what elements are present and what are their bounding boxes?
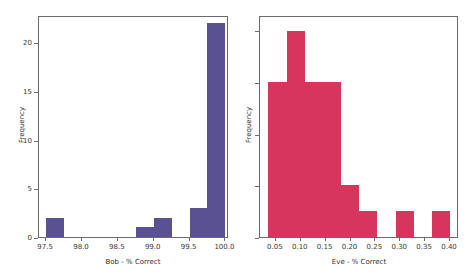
y-tick-label: 0 — [8, 234, 32, 242]
y-tick-mark — [255, 238, 259, 239]
chart-panel-eve: 0.050.100.150.200.250.300.350.40 Eve - %… — [235, 0, 470, 274]
x-tick-label: 97.5 — [37, 243, 53, 251]
histogram-bar — [323, 82, 341, 237]
y-tick-mark — [34, 189, 38, 190]
y-tick-mark — [34, 141, 38, 142]
x-tick-mark — [224, 238, 225, 241]
x-tick-label: 0.25 — [367, 243, 383, 251]
x-tick-mark — [449, 238, 450, 241]
x-tick-label: 0.05 — [267, 243, 283, 251]
x-tick-mark — [300, 238, 301, 241]
histogram-bar — [359, 211, 377, 237]
plot-area-bob — [38, 16, 228, 238]
y-tick-mark — [34, 43, 38, 44]
x-tick-mark — [45, 238, 46, 241]
x-tick-mark — [153, 238, 154, 241]
histogram-bar — [136, 227, 154, 237]
y-tick-mark — [255, 83, 259, 84]
x-tick-mark — [117, 238, 118, 241]
histogram-bar — [154, 218, 172, 237]
histogram-bar — [432, 211, 450, 237]
x-tick-mark — [374, 238, 375, 241]
y-tick-label: 20 — [8, 39, 32, 47]
histogram-bar — [268, 82, 286, 237]
x-tick-label: 0.20 — [342, 243, 358, 251]
histogram-bar — [46, 218, 64, 237]
x-tick-label: 0.30 — [391, 243, 407, 251]
y-tick-mark — [34, 238, 38, 239]
y-tick-mark — [34, 92, 38, 93]
x-tick-mark — [325, 238, 326, 241]
y-tick-label: 5 — [8, 185, 32, 193]
histogram-bar — [396, 211, 414, 237]
figure-canvas: 05101520 97.598.098.599.099.5100.0 Bob -… — [0, 0, 470, 274]
histogram-bar — [341, 185, 359, 237]
x-tick-label: 98.5 — [109, 243, 125, 251]
histogram-bar — [287, 31, 305, 238]
bars-container-bob — [39, 17, 227, 237]
x-tick-mark — [424, 238, 425, 241]
y-axis-label-eve: Frequency — [245, 95, 253, 155]
x-tick-label: 0.40 — [441, 243, 457, 251]
x-tick-label: 99.0 — [145, 243, 161, 251]
histogram-bar — [190, 208, 208, 237]
x-axis-label-eve: Eve - % Correct — [332, 258, 386, 266]
x-tick-label: 100.0 — [214, 243, 234, 251]
x-tick-mark — [189, 238, 190, 241]
y-tick-mark — [255, 186, 259, 187]
x-axis-label-bob: Bob - % Correct — [106, 258, 161, 266]
x-tick-mark — [350, 238, 351, 241]
plot-area-eve — [259, 16, 458, 238]
y-tick-mark — [255, 31, 259, 32]
x-tick-label: 99.5 — [181, 243, 197, 251]
histogram-bar — [305, 82, 323, 237]
x-tick-mark — [275, 238, 276, 241]
chart-panel-bob: 05101520 97.598.098.599.099.5100.0 Bob -… — [0, 0, 235, 274]
x-tick-mark — [81, 238, 82, 241]
x-tick-label: 0.15 — [317, 243, 333, 251]
bars-container-eve — [260, 17, 457, 237]
y-tick-mark — [255, 135, 259, 136]
x-tick-label: 0.35 — [416, 243, 432, 251]
histogram-bar — [207, 23, 225, 237]
y-axis-label-bob: Frequency — [18, 95, 26, 155]
x-tick-mark — [399, 238, 400, 241]
x-tick-label: 0.10 — [292, 243, 308, 251]
x-tick-label: 98.0 — [73, 243, 89, 251]
